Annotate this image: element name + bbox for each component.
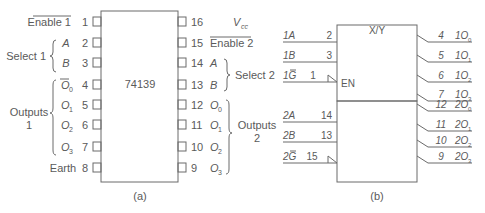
input-pin-1a: 2 (326, 30, 332, 41)
pin-number-12: 12 (191, 99, 203, 111)
active-low-indicator-1g (328, 75, 337, 82)
pin-box-9 (178, 163, 186, 172)
pin-box-15 (178, 38, 186, 47)
active-low-indicator-2g (328, 156, 337, 163)
group-label-outputs-1: Outputs (10, 106, 49, 118)
label-enable-1: Enable 1 (28, 16, 71, 28)
pin-box-8 (93, 163, 101, 172)
group-label-select-2: Select 2 (235, 69, 275, 81)
group-label-outputs-2: Outputs (238, 119, 277, 131)
pin-number-5: 5 (82, 99, 88, 111)
pin-box-3 (93, 58, 101, 67)
input-name-1b: 1B (283, 50, 296, 61)
svg-text:2: 2 (218, 148, 222, 155)
pin-number-9: 9 (191, 162, 197, 174)
svg-text:2O: 2O (454, 151, 469, 162)
pin-box-4 (93, 80, 101, 89)
diagram-b-logic-symbol: X/Y EN 1A 2 1B 3 1G 1 2A 14 2B 13 2G 15 (282, 25, 472, 202)
input-pin-1g: 1 (310, 70, 316, 81)
group-label-outputs-1-num: 1 (26, 119, 32, 131)
label-out2-o3: O 3 (210, 162, 222, 176)
output-pin-5: 5 (438, 50, 444, 61)
svg-text:1: 1 (69, 106, 73, 113)
label-out2-o2: O 2 (210, 141, 222, 155)
input-name-2g: 2G (282, 151, 297, 162)
output-pin-10: 10 (435, 135, 447, 146)
pin-number-13: 13 (191, 79, 203, 91)
brace-outputs-2 (226, 100, 232, 174)
pin-box-10 (178, 142, 186, 151)
input-pin-2a: 14 (321, 110, 333, 121)
svg-text:2: 2 (69, 126, 73, 133)
label-select1-a: A (61, 37, 69, 49)
outputs: 4 1O 0 5 1O 1 6 1O 2 7 1O 3 (417, 30, 472, 164)
svg-text:2O: 2O (454, 135, 469, 146)
pin-number-2: 2 (82, 37, 88, 49)
label-out2-o0: O 0 (210, 99, 222, 113)
output-name-1o2: 1O 2 (455, 70, 472, 83)
block-title: X/Y (369, 25, 385, 36)
pin-number-11: 11 (191, 119, 202, 131)
pin-box-16 (178, 17, 186, 26)
input-pin-2b: 13 (321, 130, 333, 141)
svg-text:3: 3 (218, 169, 222, 176)
input-name-2a: 2A (282, 110, 296, 121)
chip-body (101, 11, 178, 182)
pin-box-1 (93, 17, 101, 26)
label-out1-o0: O 0 (60, 79, 73, 93)
pin-number-4: 4 (82, 79, 88, 91)
pin-number-15: 15 (191, 37, 203, 49)
brace-outputs-1 (50, 80, 56, 155)
label-select1-b: B (62, 57, 69, 69)
right-pins: 16 15 14 13 12 11 10 9 (178, 16, 203, 174)
output-name-2o2: 2O 2 (454, 135, 472, 148)
pin-box-13 (178, 80, 186, 89)
label-vcc: V cc (233, 16, 249, 30)
output-pin-12: 12 (435, 99, 447, 110)
label-select2-b: B (210, 79, 217, 91)
pin-box-5 (93, 100, 101, 109)
inputs: 1A 2 1B 3 1G 1 2A 14 2B 13 2G 15 (282, 30, 337, 163)
output-name-1o0: 1O 0 (455, 30, 472, 43)
pin-box-14 (178, 58, 186, 67)
pin-number-7: 7 (82, 141, 88, 153)
pin-number-8: 8 (82, 162, 88, 174)
output-name-1o1: 1O 1 (455, 50, 472, 63)
label-out1-o1: O 1 (61, 99, 73, 113)
output-pin-11: 11 (436, 119, 446, 130)
svg-text:0: 0 (69, 86, 73, 93)
pin-box-2 (93, 38, 101, 47)
pin-number-6: 6 (82, 119, 88, 131)
diagram-a-pinout: 74139 1 2 3 4 5 6 7 8 Enable 1 A B (6, 11, 277, 202)
brace-select-1 (50, 40, 56, 72)
svg-text:cc: cc (241, 23, 249, 30)
left-pin-labels: Enable 1 A B O 0 O 1 O 2 O 3 Earth (6, 16, 76, 174)
pin-number-14: 14 (191, 57, 203, 69)
svg-text:2O: 2O (454, 99, 469, 110)
label-out2-o1: O 1 (210, 119, 222, 133)
pin-number-3: 3 (82, 57, 88, 69)
chip-label: 74139 (125, 78, 156, 90)
right-pin-labels: V cc Enable 2 A B O 0 O 1 O 2 O 3 (209, 16, 277, 176)
label-select2-a: A (209, 57, 217, 69)
output-name-2o1: 2O 1 (454, 119, 472, 132)
pin-box-11 (178, 120, 186, 129)
input-name-2b: 2B (282, 130, 296, 141)
caption-a: (a) (133, 190, 146, 202)
label-out1-o2: O 2 (61, 119, 73, 133)
label-enable-2: Enable 2 (210, 37, 253, 49)
svg-text:2O: 2O (454, 119, 469, 130)
decoder-block-1 (337, 25, 417, 101)
group-label-outputs-2-num: 2 (254, 132, 260, 144)
pin-number-16: 16 (191, 16, 203, 28)
output-pin-6: 6 (438, 70, 444, 81)
svg-text:1O: 1O (455, 70, 469, 81)
decoder-block-2 (337, 101, 417, 182)
svg-text:1O: 1O (455, 50, 469, 61)
input-pin-1b: 3 (326, 50, 332, 61)
label-earth: Earth (50, 162, 76, 174)
svg-text:3: 3 (69, 148, 73, 155)
input-pin-2g: 15 (306, 151, 318, 162)
left-pins: 1 2 3 4 5 6 7 8 (82, 16, 101, 174)
svg-text:1O: 1O (455, 30, 469, 41)
